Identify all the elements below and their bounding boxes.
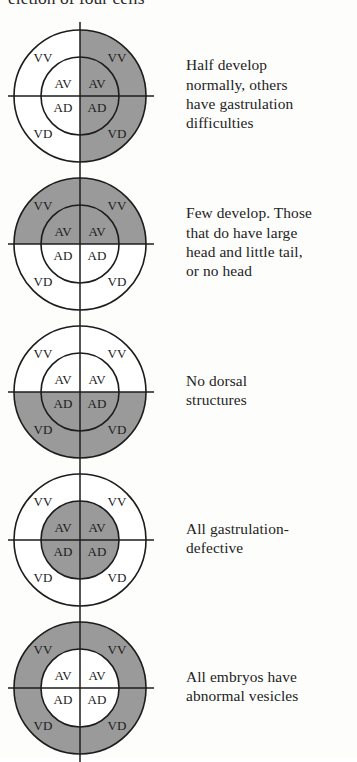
figure-heading-clipped: eletion of four cells <box>0 0 357 8</box>
caption-line: abnormal vesicles <box>186 686 357 705</box>
inner-label-bottom-left: AD <box>54 248 73 263</box>
outer-label-top-left: VV <box>34 346 53 361</box>
inner-label-top-right: AV <box>88 224 106 239</box>
outer-label-bottom-left: VD <box>34 718 53 733</box>
caption-line: defective <box>186 538 357 557</box>
inner-label-top-left: AV <box>54 76 72 91</box>
embryo-fate-map-diagram: VVVVVDVDAVAVADAD <box>8 614 168 762</box>
outer-label-bottom-right: VD <box>108 570 127 585</box>
outer-label-top-left: VV <box>34 50 53 65</box>
caption-line: Half develop <box>186 55 357 74</box>
inner-label-top-left: AV <box>54 668 72 683</box>
diagram-container: VVVVVDVDAVAVADAD <box>8 466 168 614</box>
caption-line: All gastrulation- <box>186 519 357 538</box>
outer-label-bottom-left: VD <box>34 126 53 141</box>
inner-label-top-right: AV <box>88 76 106 91</box>
outer-label-top-right: VV <box>108 494 127 509</box>
inner-label-bottom-left: AD <box>54 100 73 115</box>
caption-line: All embryos have <box>186 667 357 686</box>
outer-label-bottom-left: VD <box>34 274 53 289</box>
result-caption: No dorsalstructures <box>186 371 357 410</box>
diagram-container: VVVVVDVDAVAVADAD <box>8 614 168 762</box>
outer-label-bottom-left: VD <box>34 570 53 585</box>
experiment-row: VVVVVDVDAVAVADADAll embryos haveabnormal… <box>0 614 357 762</box>
experiment-row: VVVVVDVDAVAVADADHalf developnormally, ot… <box>0 22 357 170</box>
outer-label-bottom-right: VD <box>108 126 127 141</box>
caption-line: normally, others <box>186 75 357 94</box>
result-caption: Few develop. Thosethat do have largehead… <box>186 203 357 280</box>
figure-heading-text: eletion of four cells <box>0 0 357 8</box>
embryo-fate-map-diagram: VVVVVDVDAVAVADAD <box>8 170 168 318</box>
diagram-container: VVVVVDVDAVAVADAD <box>8 22 168 170</box>
inner-label-bottom-left: AD <box>54 396 73 411</box>
inner-label-bottom-right: AD <box>88 396 107 411</box>
outer-label-bottom-right: VD <box>108 718 127 733</box>
inner-label-bottom-right: AD <box>88 248 107 263</box>
inner-label-top-right: AV <box>88 372 106 387</box>
inner-label-bottom-left: AD <box>54 692 73 707</box>
inner-label-top-left: AV <box>54 520 72 535</box>
outer-label-top-left: VV <box>34 494 53 509</box>
inner-label-bottom-right: AD <box>88 100 107 115</box>
experiment-row: VVVVVDVDAVAVADADNo dorsalstructures <box>0 318 357 466</box>
caption-line: No dorsal <box>186 371 357 390</box>
result-caption: All gastrulation-defective <box>186 519 357 558</box>
inner-label-top-left: AV <box>54 372 72 387</box>
embryo-fate-map-diagram: VVVVVDVDAVAVADAD <box>8 466 168 614</box>
experiment-row: VVVVVDVDAVAVADADAll gastrulation-defecti… <box>0 466 357 614</box>
outer-label-top-right: VV <box>108 642 127 657</box>
diagram-container: VVVVVDVDAVAVADAD <box>8 318 168 466</box>
caption-line: Few develop. Those <box>186 203 357 222</box>
outer-label-bottom-right: VD <box>108 422 127 437</box>
inner-label-top-right: AV <box>88 520 106 535</box>
experiment-row: VVVVVDVDAVAVADADFew develop. Thosethat d… <box>0 170 357 318</box>
caption-line: that do have large <box>186 223 357 242</box>
result-caption: Half developnormally, othershave gastrul… <box>186 55 357 132</box>
outer-label-top-right: VV <box>108 198 127 213</box>
result-caption: All embryos haveabnormal vesicles <box>186 667 357 706</box>
embryo-fate-map-diagram: VVVVVDVDAVAVADAD <box>8 22 168 170</box>
inner-label-bottom-right: AD <box>88 544 107 559</box>
caption-line: head and little tail, <box>186 242 357 261</box>
inner-label-bottom-right: AD <box>88 692 107 707</box>
caption-line: structures <box>186 390 357 409</box>
inner-label-top-right: AV <box>88 668 106 683</box>
caption-line: have gastrulation <box>186 94 357 113</box>
outer-label-bottom-left: VD <box>34 422 53 437</box>
outer-label-top-left: VV <box>34 642 53 657</box>
embryo-fate-map-diagram: VVVVVDVDAVAVADAD <box>8 318 168 466</box>
outer-label-top-left: VV <box>34 198 53 213</box>
inner-label-bottom-left: AD <box>54 544 73 559</box>
caption-line: or no head <box>186 261 357 280</box>
outer-label-top-right: VV <box>108 346 127 361</box>
caption-line: difficulties <box>186 113 357 132</box>
inner-label-top-left: AV <box>54 224 72 239</box>
diagram-container: VVVVVDVDAVAVADAD <box>8 170 168 318</box>
outer-label-bottom-right: VD <box>108 274 127 289</box>
outer-label-top-right: VV <box>108 50 127 65</box>
